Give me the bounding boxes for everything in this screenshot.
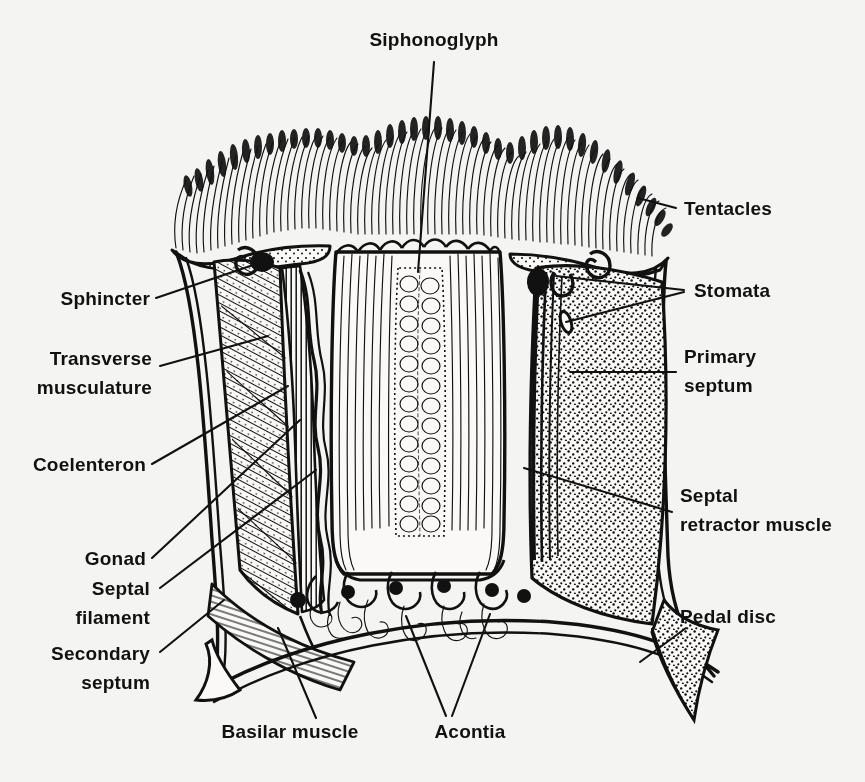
label-secondary-septum-line2: septum xyxy=(81,672,150,693)
siphonoglyph-groove xyxy=(395,268,446,536)
label-transverse-line2: musculature xyxy=(37,377,152,398)
label-primary-septum-line1: Primary xyxy=(684,346,756,367)
label-basilar-muscle: Basilar muscle xyxy=(222,721,359,742)
label-tentacles: Tentacles xyxy=(684,198,772,219)
label-siphonoglyph: Siphonoglyph xyxy=(369,29,498,50)
label-septal-retractor-line1: Septal xyxy=(680,485,738,506)
label-septal-filament-line2: filament xyxy=(76,607,151,628)
label-gonad: Gonad xyxy=(85,548,146,569)
label-coelenteron: Coelenteron xyxy=(33,454,146,475)
label-primary-septum-line2: septum xyxy=(684,375,753,396)
anemone-diagram: Siphonoglyph Tentacles Stomata Primary s… xyxy=(0,0,865,782)
label-stomata: Stomata xyxy=(694,280,771,301)
label-septal-filament-line1: Septal xyxy=(92,578,150,599)
label-septal-retractor-line2: retractor muscle xyxy=(680,514,832,535)
figure-canvas: Siphonoglyph Tentacles Stomata Primary s… xyxy=(0,0,865,782)
label-transverse-line1: Transverse xyxy=(50,348,152,369)
label-pedal-disc: Pedal disc xyxy=(680,606,776,627)
label-sphincter: Sphincter xyxy=(61,288,151,309)
primary-septum-right xyxy=(527,252,666,624)
label-secondary-septum-line1: Secondary xyxy=(51,643,150,664)
pharynx xyxy=(331,240,505,581)
label-acontia: Acontia xyxy=(434,721,505,742)
